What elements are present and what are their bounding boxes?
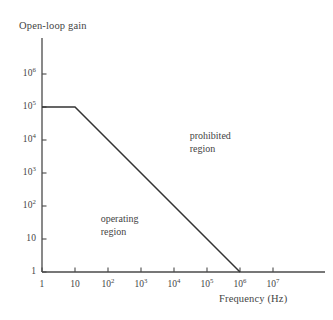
x-tick-label: 103 [134,280,147,290]
axes-group [42,38,325,272]
y-tick-label: 104 [10,135,36,145]
x-tick-label: 102 [101,280,114,290]
operating-region-label: operating region [101,213,139,238]
x-tick-label: 10 [70,280,80,290]
y-tick-label: 10 [10,234,36,244]
x-tick-label: 107 [266,280,279,290]
y-tick-marks [42,74,47,272]
y-tick-label: 103 [10,168,36,178]
y-tick-label: 106 [10,69,36,79]
plot-canvas [0,0,333,320]
x-tick-label: 105 [200,280,213,290]
prohibited-region-line1: prohibited [190,130,231,143]
x-tick-label: 106 [233,280,246,290]
x-tick-label: 1 [40,280,45,290]
x-axis-title: Frequency (Hz) [219,294,287,305]
prohibited-region-label: prohibited region [190,130,231,155]
operating-region-line2: region [101,226,139,239]
y-tick-label: 1 [10,267,36,277]
x-tick-label: 104 [167,280,180,290]
operating-region-line1: operating [101,213,139,226]
y-axis-title: Open-loop gain [19,21,87,32]
prohibited-region-line2: region [190,143,231,156]
open-loop-gain-figure: 110102103104105106107 106105104103102101… [0,0,333,320]
y-tick-label: 105 [10,102,36,112]
y-tick-label: 102 [10,201,36,211]
